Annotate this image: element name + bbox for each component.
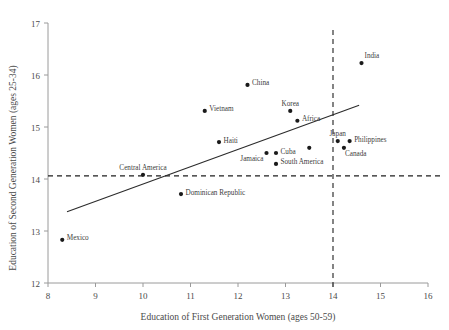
x-tick-label: 15 bbox=[376, 291, 386, 301]
data-point: Canada bbox=[342, 146, 367, 158]
point-marker bbox=[217, 140, 221, 144]
point-marker bbox=[288, 109, 292, 113]
point-label: Jamaica bbox=[240, 155, 264, 163]
data-point: India bbox=[359, 52, 380, 65]
data-point: South America bbox=[274, 158, 324, 166]
point-label: Vietnam bbox=[209, 105, 234, 113]
point-marker bbox=[274, 151, 278, 155]
y-tick-label: 12 bbox=[31, 279, 40, 289]
data-point: Korea bbox=[281, 100, 299, 113]
point-marker bbox=[264, 151, 268, 155]
data-point bbox=[307, 146, 311, 150]
x-tick-label: 11 bbox=[186, 291, 195, 301]
point-marker bbox=[179, 192, 183, 196]
point-marker bbox=[359, 61, 363, 65]
point-label: Mexico bbox=[67, 234, 89, 242]
scatter-plot: 8910111213141516121314151617 MexicoCentr… bbox=[0, 0, 449, 330]
data-point: Vietnam bbox=[203, 105, 234, 113]
data-point: Central America bbox=[119, 164, 167, 177]
data-point: Africa bbox=[295, 115, 321, 123]
point-label: Dominican Republic bbox=[186, 189, 246, 197]
point-label: Central America bbox=[119, 164, 167, 172]
point-label: Cuba bbox=[281, 148, 297, 156]
x-tick-label: 10 bbox=[139, 291, 149, 301]
point-marker bbox=[295, 119, 299, 123]
y-tick-label: 16 bbox=[31, 71, 41, 81]
point-label: Haiti bbox=[224, 137, 238, 145]
x-axis-title: Education of First Generation Women (age… bbox=[141, 312, 336, 323]
point-marker bbox=[203, 109, 207, 113]
point-marker bbox=[336, 139, 340, 143]
data-points: MexicoCentral AmericaDominican RepublicV… bbox=[60, 52, 387, 242]
x-tick-label: 9 bbox=[93, 291, 98, 301]
data-point: China bbox=[245, 79, 270, 87]
y-tick-label: 15 bbox=[31, 123, 41, 133]
data-point: Cuba bbox=[274, 148, 297, 156]
data-point: Philippines bbox=[348, 136, 387, 144]
point-marker bbox=[348, 139, 352, 143]
chart-container: 8910111213141516121314151617 MexicoCentr… bbox=[0, 0, 449, 330]
point-marker bbox=[307, 146, 311, 150]
point-label: Korea bbox=[281, 100, 299, 108]
point-label: Canada bbox=[345, 150, 367, 158]
data-point: Dominican Republic bbox=[179, 189, 245, 197]
tick-labels: 8910111213141516121314151617 bbox=[31, 19, 433, 302]
axes bbox=[44, 23, 428, 287]
point-label: Africa bbox=[302, 115, 321, 123]
y-tick-label: 13 bbox=[31, 227, 41, 237]
point-marker bbox=[245, 83, 249, 87]
point-label: Japan bbox=[330, 130, 347, 138]
point-label: South America bbox=[281, 158, 325, 166]
point-marker bbox=[274, 162, 278, 166]
point-label: China bbox=[252, 79, 270, 87]
y-axis-title: Education of Second Generation Women (ag… bbox=[8, 65, 19, 270]
point-label: India bbox=[365, 52, 381, 60]
data-point: Japan bbox=[330, 130, 347, 143]
x-tick-label: 8 bbox=[46, 291, 51, 301]
data-point: Jamaica bbox=[240, 151, 268, 163]
x-tick-label: 16 bbox=[424, 291, 434, 301]
point-marker bbox=[141, 173, 145, 177]
x-tick-label: 14 bbox=[329, 291, 339, 301]
point-label: Philippines bbox=[354, 136, 387, 144]
data-point: Mexico bbox=[60, 234, 89, 242]
x-tick-label: 13 bbox=[281, 291, 291, 301]
y-tick-label: 14 bbox=[31, 175, 41, 185]
data-point: Haiti bbox=[217, 137, 238, 145]
x-tick-label: 12 bbox=[234, 291, 243, 301]
y-tick-label: 17 bbox=[31, 19, 41, 29]
point-marker bbox=[60, 238, 64, 242]
